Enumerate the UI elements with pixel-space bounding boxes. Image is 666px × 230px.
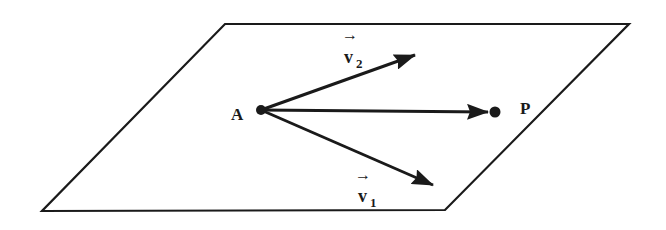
diagram-canvas: A P → v 2 → v 1 — [0, 0, 666, 230]
label-v1-base: v — [358, 186, 367, 206]
label-v2-arrow-over: → — [342, 26, 358, 43]
point-a-dot — [256, 105, 266, 115]
vector-v2-arrow — [261, 55, 415, 110]
label-point-a: A — [231, 105, 244, 124]
point-p-dot — [490, 107, 501, 118]
label-v1-arrow-over: → — [355, 166, 371, 183]
plane-vector-diagram: A P → v 2 → v 1 — [0, 0, 666, 230]
label-point-p: P — [520, 99, 530, 118]
vector-ap-arrow — [261, 110, 488, 112]
label-v1-subscript: 1 — [370, 195, 377, 210]
label-v2-base: v — [344, 47, 353, 67]
plane-parallelogram — [42, 24, 629, 211]
vector-v1-arrow — [261, 110, 433, 185]
label-v2-subscript: 2 — [356, 56, 363, 71]
